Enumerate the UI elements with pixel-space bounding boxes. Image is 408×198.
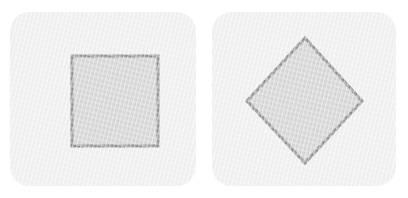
diamond-shape-canvas [212,12,396,186]
square-shape-canvas [10,12,196,186]
figure-root [0,0,408,198]
square-panel[interactable] [10,12,196,186]
diamond-panel[interactable] [212,12,396,186]
square-icon [72,56,158,146]
diamond-icon [247,38,362,163]
